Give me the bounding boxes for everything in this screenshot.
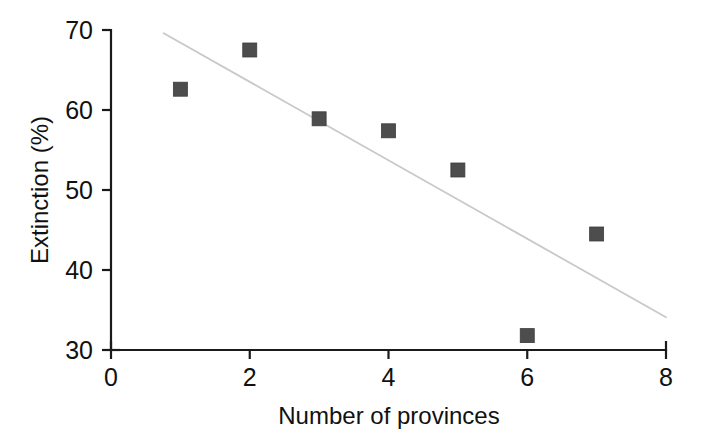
y-tick-label: 40 — [65, 256, 93, 284]
x-tick-label: 6 — [520, 363, 534, 391]
data-point-marker — [382, 124, 396, 138]
y-tick-label: 70 — [65, 16, 93, 44]
x-tick-label: 4 — [382, 363, 396, 391]
x-tick-label: 8 — [659, 363, 673, 391]
data-point-marker — [312, 112, 326, 126]
data-point-marker — [590, 227, 604, 241]
x-axis-title: Number of provinces — [278, 402, 499, 429]
data-point-marker — [243, 43, 257, 57]
y-axis-title: Extinction (%) — [26, 116, 53, 264]
y-tick-label: 30 — [65, 336, 93, 364]
scatter-chart-figure: 02468 3040506070 Number of provinces Ext… — [0, 0, 708, 440]
data-point-marker — [520, 329, 534, 343]
data-point-marker — [451, 163, 465, 177]
y-tick-label: 60 — [65, 96, 93, 124]
chart-canvas: 02468 3040506070 Number of provinces Ext… — [0, 0, 708, 440]
y-tick-label: 50 — [65, 176, 93, 204]
data-point-marker — [173, 82, 187, 96]
x-tick-label: 2 — [243, 363, 257, 391]
x-tick-label: 0 — [104, 363, 118, 391]
